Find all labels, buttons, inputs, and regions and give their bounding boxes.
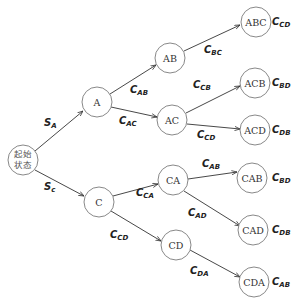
edge-CA-CAB	[188, 172, 237, 179]
edge-label-CCA: CCA	[136, 187, 154, 200]
node-C: C	[84, 187, 114, 217]
terminal-cost-ACD: CDB	[272, 124, 291, 137]
edge-AC-ACD	[187, 124, 240, 129]
node-A: A	[82, 87, 112, 117]
edge-label-CAD: CAD	[188, 207, 207, 220]
decision-tree-diagram: SA Sc CAB CAC CBC CCB CCD CCA CCD CAB CA…	[0, 0, 291, 305]
node-CDA: CDA	[239, 267, 269, 297]
edge-label-SC: Sc	[44, 181, 56, 194]
svg-text:AB: AB	[162, 53, 177, 64]
svg-text:AC: AC	[164, 115, 179, 126]
terminal-cost-ACB: CBD	[272, 77, 291, 90]
edge-AC-ACB	[186, 86, 240, 113]
edge-start-A	[35, 111, 83, 151]
svg-text:CD: CD	[169, 240, 184, 251]
node-AB: AB	[155, 43, 185, 73]
node-CD: CD	[161, 230, 191, 260]
terminal-cost-CAB: CBD	[272, 172, 291, 185]
edge-start-C	[35, 170, 84, 196]
svg-text:ABC: ABC	[244, 17, 266, 28]
edge-label-CAC: CAC	[119, 115, 138, 128]
edge-label-CCB: CCB	[193, 79, 211, 92]
node-AC: AC	[157, 105, 187, 135]
terminal-cost-CAD: CDB	[272, 224, 291, 237]
edge-label-CCD-upper: CCD	[197, 129, 215, 142]
edge-label-CDA: CDA	[190, 265, 209, 278]
node-CA: CA	[158, 165, 188, 195]
edge-label-CCD-lower: CCD	[110, 229, 128, 242]
edge-A-AC	[111, 107, 157, 117]
edge-label-CAB: CAB	[130, 84, 148, 97]
terminal-cost-ABC: CCD	[272, 16, 290, 29]
edge-label-CAB-lower: CAB	[202, 158, 220, 171]
edge-AB-ABC	[184, 25, 240, 51]
edge-label-SA: SA	[44, 117, 57, 130]
node-ABC: ABC	[241, 7, 271, 37]
node-ACB: ACB	[240, 68, 270, 98]
svg-text:起始: 起始	[14, 149, 32, 159]
svg-text:CAD: CAD	[242, 225, 264, 236]
svg-text:A: A	[93, 97, 101, 108]
node-CAD: CAD	[238, 215, 268, 245]
node-CAB: CAB	[237, 163, 267, 193]
edge-label-CBC: CBC	[204, 44, 223, 57]
terminal-cost-CDA: CAB	[272, 276, 290, 289]
svg-text:CAB: CAB	[241, 173, 262, 184]
svg-text:ACB: ACB	[243, 78, 265, 89]
svg-text:CA: CA	[166, 175, 180, 186]
node-start: 起始 状态	[8, 145, 38, 175]
node-ACD: ACD	[240, 115, 270, 145]
svg-text:CDA: CDA	[243, 277, 265, 288]
svg-text:C: C	[95, 197, 102, 208]
svg-text:ACD: ACD	[243, 125, 266, 136]
svg-text:状态: 状态	[14, 160, 32, 170]
